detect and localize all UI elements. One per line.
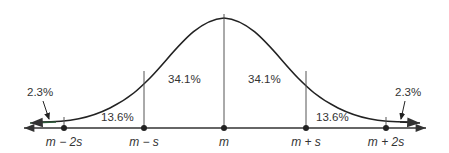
axis-label-m-plus-2s: m + 2s	[368, 135, 404, 149]
axis-label-m-minus-2s: m − 2s	[46, 135, 82, 149]
right-outer-label: 13.6%	[316, 111, 349, 123]
left-outer-label: 13.6%	[101, 111, 134, 123]
right-tail-arrow	[400, 122, 420, 123]
dot-m-minus-s	[141, 125, 147, 131]
right-tail-pointer	[401, 101, 405, 119]
dot-m-plus-2s	[383, 125, 389, 131]
left-tail-arrow	[30, 122, 56, 123]
right-tail-label: 2.3%	[395, 86, 421, 98]
dot-m-minus-2s	[61, 125, 67, 131]
axis-label-m-minus-s: m − s	[129, 135, 159, 149]
normal-distribution-diagram: 2.3% 13.6% 34.1% 34.1% 13.6% 2.3% m − 2s…	[0, 0, 449, 153]
dot-m-plus-s	[303, 125, 309, 131]
left-inner-label: 34.1%	[168, 73, 201, 85]
axis-label-m: m	[219, 135, 229, 149]
right-inner-label: 34.1%	[248, 73, 281, 85]
left-tail-pointer	[43, 101, 49, 119]
left-tail-label: 2.3%	[27, 86, 53, 98]
dot-m	[221, 125, 227, 131]
axis-label-m-plus-s: m + s	[291, 135, 321, 149]
